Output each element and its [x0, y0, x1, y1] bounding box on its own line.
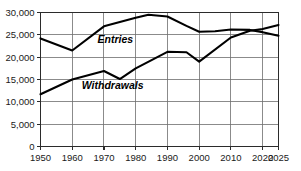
series-label-withdrawals: Withdrawals [82, 79, 144, 91]
x-tick-label: 1980 [125, 152, 146, 163]
x-tick-label: 1970 [93, 152, 114, 163]
series-lines [41, 15, 279, 95]
line-chart: 30,00025,00020,00015,00010,0005,0000 195… [0, 0, 301, 171]
y-axis-tick-labels: 30,00025,00020,00015,00010,0005,0000 [5, 7, 34, 152]
y-tick-label: 10,000 [5, 96, 34, 107]
x-tick-label: 2000 [189, 152, 210, 163]
x-tick-label: 2025 [268, 152, 289, 163]
series-line-withdrawals [41, 25, 279, 94]
chart-canvas: 30,00025,00020,00015,00010,0005,0000 195… [0, 0, 301, 171]
y-tick-label: 30,000 [5, 7, 34, 18]
x-tick-label: 2010 [220, 152, 241, 163]
x-tick-label: 1960 [62, 152, 83, 163]
y-tick-label: 25,000 [5, 29, 34, 40]
x-tick-label: 1950 [30, 152, 51, 163]
x-axis-tick-labels: 195019601970198019902000201020202025 [30, 152, 289, 163]
series-label-entries: Entries [98, 33, 134, 45]
y-tick-label: 0 [29, 141, 34, 152]
x-tick-label: 1990 [157, 152, 178, 163]
y-tick-label: 20,000 [5, 52, 34, 63]
series-annotations: EntriesWithdrawals [82, 33, 144, 91]
y-tick-label: 15,000 [5, 74, 34, 85]
y-tick-label: 5,000 [11, 119, 35, 130]
